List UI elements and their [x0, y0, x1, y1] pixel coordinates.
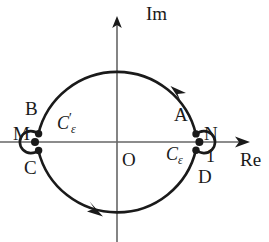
point-label-m: M	[13, 124, 30, 143]
dot-n	[195, 138, 203, 146]
contour-label-c-eps-base: C	[166, 144, 178, 164]
dot-m	[31, 138, 39, 146]
figure-canvas: Im Re O B M C A N 1 D C′ε Cε	[0, 0, 269, 242]
imaginary-axis-label: Im	[146, 4, 167, 23]
dot-d	[192, 147, 199, 154]
point-label-one: 1	[206, 147, 215, 165]
contour-label-c-eps: Cε	[166, 145, 183, 166]
contour-label-c-eps-prime-sub: ε	[71, 122, 76, 136]
origin-label: O	[122, 150, 136, 169]
contour-label-c-eps-prime: C′ε	[57, 112, 76, 135]
point-label-b: B	[25, 99, 38, 118]
point-label-d: D	[198, 167, 212, 186]
arrowhead-lower-left	[87, 202, 103, 217]
real-axis-label: Re	[240, 150, 261, 169]
imaginary-axis	[112, 16, 122, 242]
point-label-c: C	[24, 158, 37, 177]
point-label-a: A	[174, 105, 188, 124]
dot-c	[35, 147, 42, 154]
dot-b	[35, 130, 42, 137]
point-label-n: N	[204, 124, 218, 143]
contour-diagram-svg	[0, 0, 269, 242]
contour-label-c-eps-sub: ε	[178, 153, 183, 167]
dot-a	[192, 130, 199, 137]
